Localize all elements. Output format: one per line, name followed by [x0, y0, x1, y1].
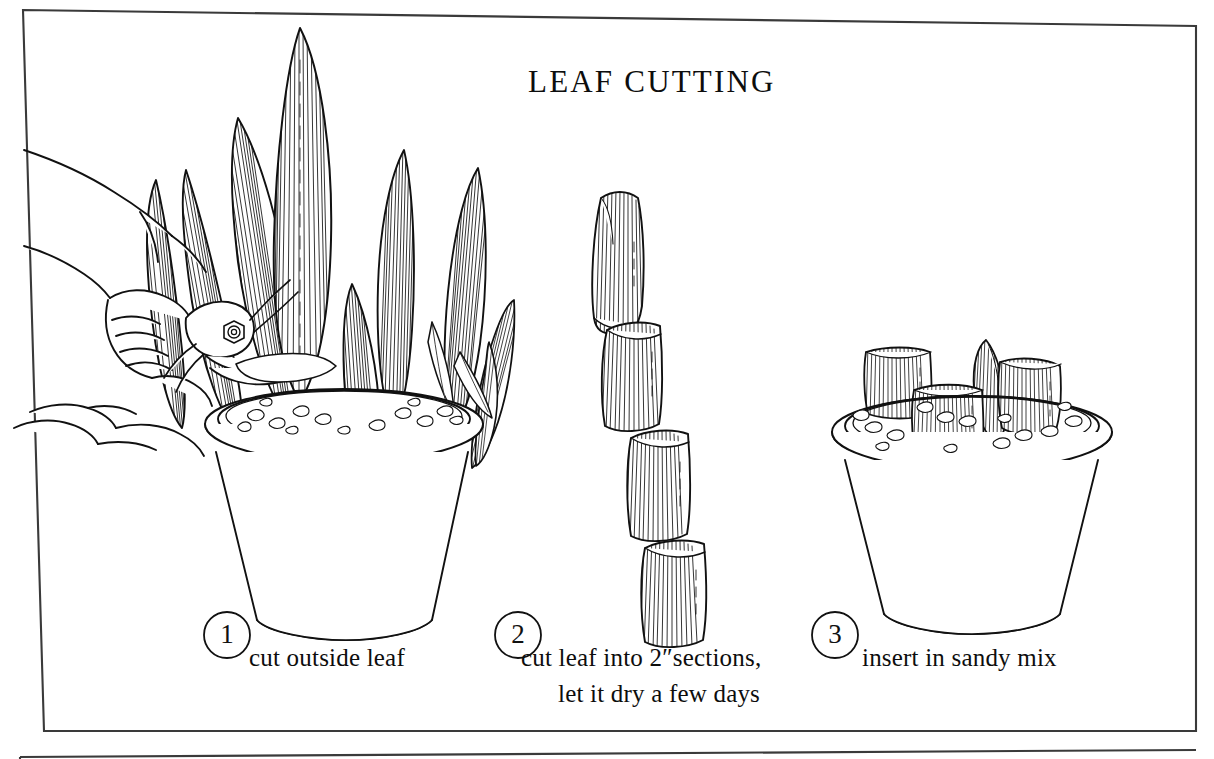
- page-title: LEAF CUTTING: [528, 64, 776, 100]
- step-3-number: 3: [812, 612, 858, 658]
- step-3-caption: insert in sandy mix: [862, 644, 1057, 672]
- step-1-caption: cut outside leaf: [249, 644, 405, 672]
- step-1-number: 1: [204, 612, 250, 658]
- step3-illustration: [832, 336, 1112, 634]
- step1-illustration: [14, 24, 517, 640]
- step2-illustration: [592, 189, 706, 650]
- pot-1: [205, 389, 483, 640]
- illustration-page: LEAF CUTTING 1 cut outside leaf 2 cut le…: [0, 0, 1214, 759]
- step-2-caption-line-1: cut leaf into 2″sections,: [521, 644, 761, 672]
- step-2-caption-line-2: let it dry a few days: [558, 680, 760, 708]
